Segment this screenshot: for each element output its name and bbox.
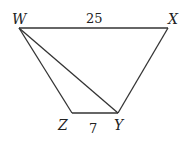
length-label-zy: 7 xyxy=(89,121,97,136)
vertex-label-x: X xyxy=(167,11,179,27)
diagonal-wy xyxy=(19,28,118,113)
vertex-label-w: W xyxy=(12,11,28,27)
length-label-wx: 25 xyxy=(86,11,103,26)
vertex-label-z: Z xyxy=(57,117,68,133)
vertex-label-y: Y xyxy=(114,117,125,133)
trapezoid-diagram: W X Z Y 25 7 xyxy=(0,0,185,146)
edge-zw xyxy=(19,28,72,113)
edge-xy xyxy=(118,28,168,113)
